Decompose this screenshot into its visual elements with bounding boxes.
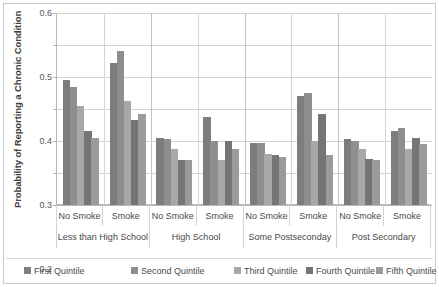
legend-label: First Quintile [34, 266, 85, 276]
legend-item[interactable]: Second Quintile [131, 266, 205, 276]
x-axis-group-label: Less than High School [56, 226, 150, 248]
x-axis-category-label: No Smoke [150, 205, 197, 226]
legend-item[interactable]: Fifth Quintile [376, 266, 437, 276]
x-axis-group-label: Some Postseconday [244, 226, 338, 248]
legend-label: Fourth Quintile [316, 266, 375, 276]
plot-area: 00.10.20.30.40.50.6 [56, 13, 431, 205]
legend-item[interactable]: Third Quintile [234, 266, 298, 276]
legend-swatch-icon [306, 267, 313, 274]
x-axis-category-label: Smoke [103, 205, 150, 226]
legend-label: Second Quintile [141, 266, 205, 276]
x-axis-category-label: Smoke [290, 205, 337, 226]
x-axis-group-label: Post Secondary [337, 226, 431, 248]
x-axis-category-label: Smoke [197, 205, 244, 226]
x-axis-education-labels: Less than High SchoolHigh SchoolSome Pos… [56, 226, 431, 248]
y-axis-tick-label: 0.6 [39, 8, 52, 18]
chart-legend: First QuintileSecond QuintileThird Quint… [6, 258, 433, 282]
x-axis-group-label: High School [150, 226, 244, 248]
legend-swatch-icon [24, 267, 31, 274]
bar [279, 157, 287, 205]
x-axis-category-label: Smoke [384, 205, 431, 226]
y-axis-title: Probability of Reporting a Chronic Condi… [12, 10, 23, 210]
legend-swatch-icon [131, 267, 138, 274]
bar [185, 160, 193, 205]
legend-label: Fifth Quintile [386, 266, 437, 276]
x-axis-category-label: No Smoke [337, 205, 384, 226]
bar [419, 144, 427, 205]
x-axis-smoke-labels: No SmokeSmokeNo SmokeSmokeNo SmokeSmokeN… [56, 205, 431, 226]
chart-container: Probability of Reporting a Chronic Condi… [0, 0, 439, 287]
y-axis-tick-label: 0.5 [39, 72, 52, 82]
y-axis-tick-label: 0.4 [39, 136, 52, 146]
x-axis-category-label: No Smoke [56, 205, 103, 226]
y-axis-tick-label: 0.3 [39, 200, 52, 210]
bar [138, 114, 146, 205]
bar [91, 138, 99, 205]
legend-item[interactable]: First Quintile [24, 266, 85, 276]
legend-label: Third Quintile [244, 266, 298, 276]
legend-swatch-icon [234, 267, 241, 274]
x-axis-category-label: No Smoke [244, 205, 291, 226]
bar [372, 160, 380, 205]
legend-item[interactable]: Fourth Quintile [306, 266, 375, 276]
legend-swatch-icon [376, 267, 383, 274]
bar [326, 155, 334, 205]
bar [232, 149, 240, 205]
bar-series-layer [57, 13, 432, 205]
